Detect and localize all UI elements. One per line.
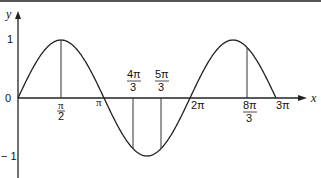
- x-axis-label: x: [310, 91, 317, 105]
- x-tick-3pi: 3π: [276, 99, 290, 111]
- y-tick-1: 1: [7, 33, 13, 45]
- y-axis-label: y: [5, 7, 12, 21]
- sine-chart: y 1 0 − 1 x π 2 π 4π 3 5π 3 2π 8π 3 3π: [0, 0, 321, 178]
- chart-frame: y 1 0 − 1 x π 2 π 4π 3 5π 3 2π 8π 3 3π: [0, 0, 321, 178]
- x-tick-4pi-3-num: 4π: [127, 68, 141, 80]
- x-tick-4pi-3-den: 3: [130, 81, 136, 93]
- y-tick-0: 0: [5, 92, 11, 104]
- x-tick-5pi-3-den: 3: [158, 81, 164, 93]
- x-tick-8pi-3-den: 3: [246, 112, 252, 124]
- y-tick-neg1: − 1: [1, 150, 17, 162]
- x-tick-2pi: 2π: [191, 99, 205, 111]
- x-tick-5pi-3-num: 5π: [155, 68, 169, 80]
- x-tick-pi-half-den: 2: [58, 110, 64, 122]
- y-axis-arrow-icon: [15, 11, 21, 19]
- x-tick-8pi-3-num: 8π: [243, 99, 257, 111]
- x-tick-pi: π: [96, 96, 102, 108]
- x-axis-arrow-icon: [298, 95, 307, 101]
